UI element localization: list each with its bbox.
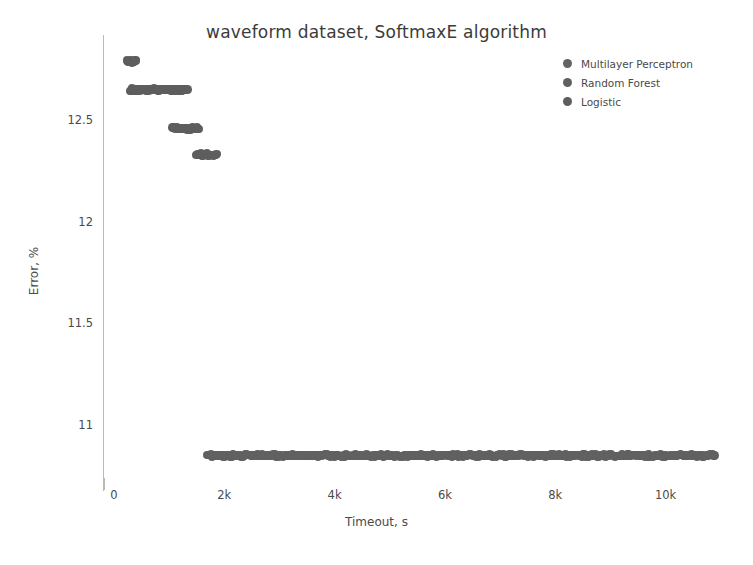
x-axis-spine bbox=[104, 490, 740, 491]
legend-item-label: Multilayer Perceptron bbox=[581, 58, 693, 70]
legend-item-label: Random Forest bbox=[581, 77, 660, 89]
x-axis-label: Timeout, s bbox=[0, 515, 753, 529]
y-axis-tick-label: 12.5 bbox=[47, 113, 93, 127]
y-axis-tick-label: 11.5 bbox=[47, 316, 93, 330]
x-axis-tick-label: 2k bbox=[217, 488, 231, 502]
legend-marker-icon bbox=[563, 78, 572, 87]
legend-item[interactable]: Multilayer Perceptron bbox=[563, 55, 743, 72]
y-axis-tick-label: 11 bbox=[47, 418, 93, 432]
legend-item[interactable]: Logistic bbox=[563, 93, 743, 110]
legend-marker-icon bbox=[563, 59, 572, 68]
chart-legend: Multilayer PerceptronRandom ForestLogist… bbox=[563, 55, 743, 112]
x-axis-tick-label: 8k bbox=[548, 488, 562, 502]
data-point bbox=[212, 150, 221, 159]
legend-item-label: Logistic bbox=[581, 96, 621, 108]
legend-marker-icon bbox=[563, 97, 572, 106]
data-point bbox=[183, 85, 192, 94]
y-axis-label: Error, % bbox=[27, 231, 41, 311]
x-axis-tick-label: 10k bbox=[655, 488, 676, 502]
chart-figure: waveform dataset, SoftmaxE algorithm 111… bbox=[0, 0, 753, 565]
x-axis-tick-label: 4k bbox=[328, 488, 342, 502]
x-axis-tick-label: 6k bbox=[438, 488, 452, 502]
data-point bbox=[710, 451, 719, 460]
y-axis-tick-label: 12 bbox=[47, 215, 93, 229]
data-point bbox=[195, 125, 204, 134]
legend-item[interactable]: Random Forest bbox=[563, 74, 743, 91]
x-axis-tick-label: 0 bbox=[110, 488, 117, 502]
y-axis-tick-labels: 1111.51212.5 bbox=[43, 0, 93, 565]
